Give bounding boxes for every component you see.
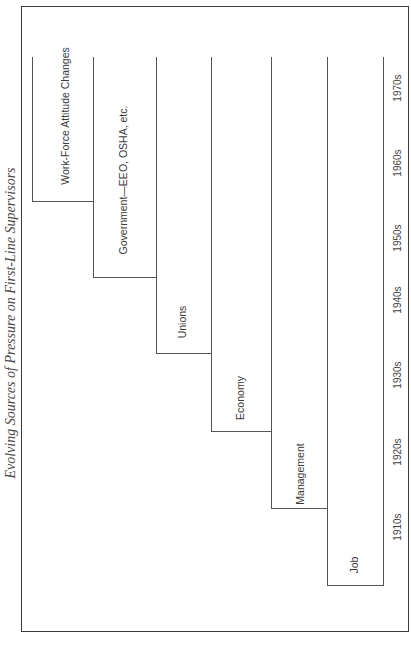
step-work-force: [32, 201, 94, 202]
label-economy: Economy: [234, 376, 246, 420]
vline-1: [32, 57, 33, 202]
vline-3: [156, 57, 157, 354]
vline-7: [383, 57, 384, 586]
decade-1940s: 1940s: [392, 286, 403, 313]
vline-2: [93, 57, 94, 278]
decade-1970s: 1970s: [392, 74, 403, 101]
figure-caption: Evolving Sources of Pressure on First-Li…: [3, 167, 19, 478]
decade-1930s: 1930s: [392, 361, 403, 388]
step-economy: [211, 431, 272, 432]
decade-1910s: 1910s: [392, 513, 403, 540]
decade-1950s: 1950s: [392, 224, 403, 251]
label-work-force-attitude: Work-Force Attitude Changes: [59, 47, 71, 185]
decade-1920s: 1920s: [392, 438, 403, 465]
step-government: [93, 277, 157, 278]
step-management: [271, 508, 328, 509]
label-job: Job: [348, 557, 360, 574]
vline-6: [327, 57, 328, 586]
decade-1960s: 1960s: [392, 149, 403, 176]
vline-5: [271, 57, 272, 509]
diagram-frame: [21, 6, 409, 632]
label-government: Government—EEO, OSHA, etc.: [117, 106, 129, 255]
step-unions: [156, 353, 212, 354]
step-job: [327, 585, 384, 586]
vline-4: [211, 57, 212, 432]
label-management: Management: [294, 443, 306, 504]
label-unions: Unions: [176, 306, 188, 339]
